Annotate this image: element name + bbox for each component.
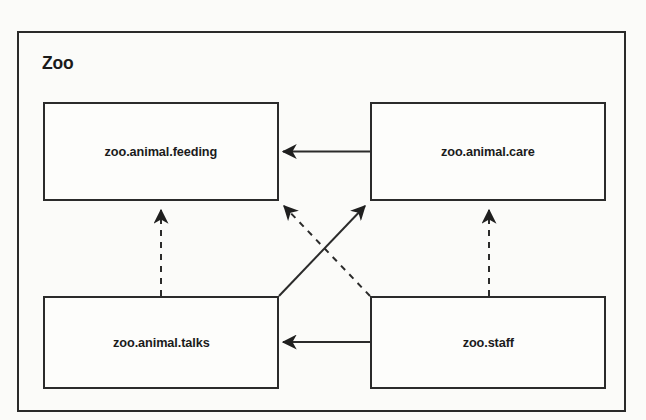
edge-talks-to-care (279, 206, 365, 296)
edge-staff-to-feeding (284, 206, 370, 296)
package-node-label: zoo.staff (462, 335, 513, 350)
package-node-care[interactable]: zoo.animal.care (370, 102, 606, 201)
package-node-staff[interactable]: zoo.staff (370, 296, 606, 389)
package-node-talks[interactable]: zoo.animal.talks (43, 296, 279, 389)
package-node-label: zoo.animal.care (441, 144, 535, 159)
package-diagram: Zoo zoo.animal (0, 0, 646, 420)
package-node-label: zoo.animal.talks (113, 335, 210, 350)
package-node-feeding[interactable]: zoo.animal.feeding (43, 102, 279, 201)
package-node-label: zoo.animal.feeding (105, 144, 218, 159)
